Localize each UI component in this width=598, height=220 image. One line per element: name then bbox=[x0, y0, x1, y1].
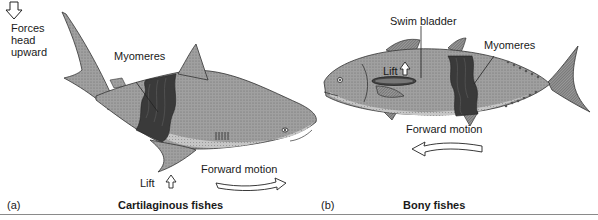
forces-line-1: Forces bbox=[11, 22, 47, 34]
forward-motion-arrow-icon-a bbox=[216, 178, 286, 191]
down-arrow-icon bbox=[6, 2, 22, 19]
forces-head-upward-label: Forces head upward bbox=[11, 22, 47, 58]
forward-motion-label-a: Forward motion bbox=[201, 163, 277, 176]
forces-line-2: head bbox=[11, 34, 47, 46]
bottom-divider bbox=[0, 214, 598, 215]
diagram-art bbox=[0, 0, 598, 220]
forward-motion-label-b: Forward motion bbox=[406, 123, 482, 136]
lift-label-a: Lift bbox=[140, 177, 155, 190]
caption-bony-fishes: Bony fishes bbox=[403, 199, 465, 212]
tuna-illustration bbox=[324, 38, 590, 126]
myomeres-label-a: Myomeres bbox=[114, 50, 165, 63]
forces-line-3: upward bbox=[11, 46, 47, 58]
swim-bladder-label: Swim bladder bbox=[390, 15, 457, 28]
lift-arrow-icon-a bbox=[166, 175, 176, 188]
caption-cartilaginous-fishes: Cartilaginous fishes bbox=[118, 199, 223, 212]
forward-motion-arrow-icon-b bbox=[412, 142, 482, 156]
panel-letter-b: (b) bbox=[321, 199, 334, 212]
shark-illustration bbox=[62, 12, 316, 172]
lift-label-b: Lift bbox=[383, 65, 398, 78]
myomeres-label-b: Myomeres bbox=[484, 39, 535, 52]
panel-letter-a: (a) bbox=[7, 199, 20, 212]
